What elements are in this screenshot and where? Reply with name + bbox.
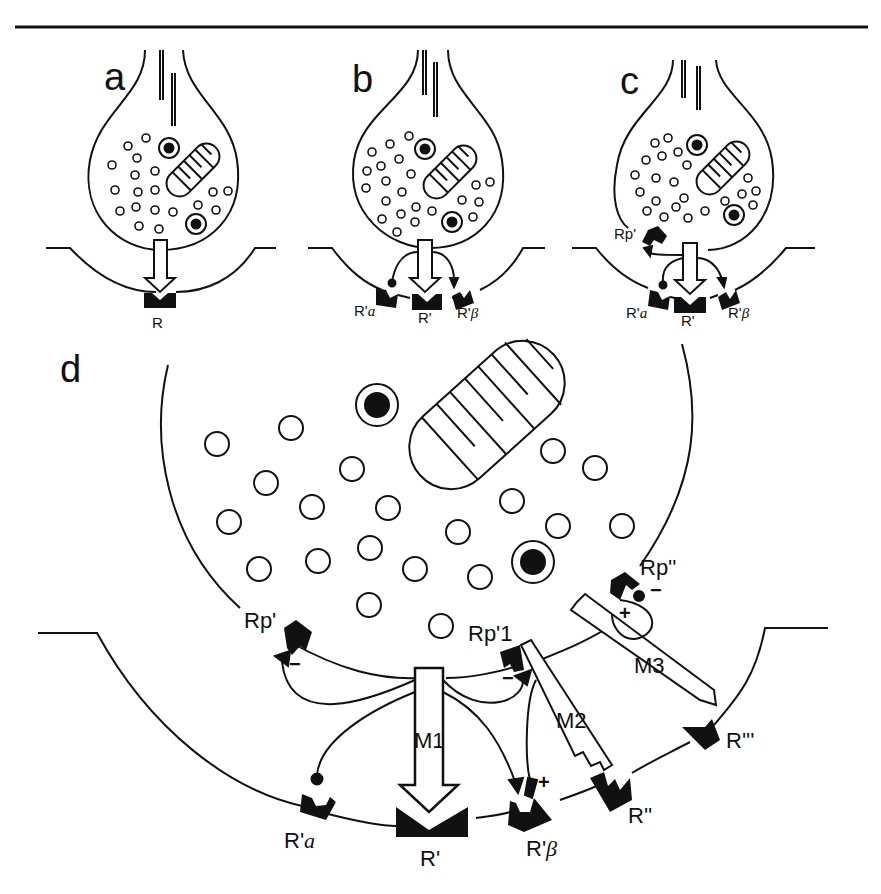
panel-d-terminal xyxy=(38,324,828,837)
label-R-prime: R' xyxy=(418,310,432,325)
label-Rp-prime: Rp' xyxy=(614,226,636,241)
synapse-figure xyxy=(0,0,881,894)
receptor-Rp-prime xyxy=(284,620,312,655)
mitochondrion xyxy=(392,324,582,507)
label-R-prime-a: R'a xyxy=(354,303,375,319)
panel-label-c: c xyxy=(620,62,639,100)
release-arrow xyxy=(145,240,175,292)
label-R-prime-a: R'a xyxy=(626,305,647,321)
label-M3: M3 xyxy=(634,655,665,677)
receptor-R-prime-a xyxy=(300,794,336,820)
panel-a-terminal xyxy=(46,50,276,308)
receptor-R-prime-beta xyxy=(508,798,552,832)
M3-arrow xyxy=(571,594,716,705)
M2-arrow xyxy=(521,640,612,770)
label-R-prime-beta: R'β xyxy=(457,305,478,321)
label-R-triple-prime: R''' xyxy=(726,730,755,752)
label-M2: M2 xyxy=(556,710,587,732)
minus-sign: − xyxy=(502,668,514,688)
label-R-double-prime: R'' xyxy=(628,805,652,827)
label-Rp-prime-1: Rp'1 xyxy=(468,623,513,645)
label-R-prime: R' xyxy=(420,848,440,870)
label-R-prime-a: R'a xyxy=(284,830,315,852)
panel-b-terminal xyxy=(308,50,545,310)
label-Rp-prime: Rp' xyxy=(244,610,276,632)
label-R-prime-beta: R'β xyxy=(526,838,557,860)
plus-sign: + xyxy=(619,603,631,623)
label-R: R xyxy=(152,315,163,330)
label-R-prime: R' xyxy=(681,313,695,328)
receptor-R-prime xyxy=(396,807,468,837)
minus-sign: − xyxy=(650,580,662,600)
label-Rp-double-prime: Rp'' xyxy=(640,557,677,579)
minus-sign: − xyxy=(289,654,301,674)
label-R-prime-beta: R'β xyxy=(728,305,749,321)
panel-c-terminal xyxy=(572,60,815,313)
label-M1: M1 xyxy=(414,730,445,752)
panel-label-a: a xyxy=(104,58,125,96)
panel-label-d: d xyxy=(60,350,81,388)
receptor-R xyxy=(144,293,176,308)
plus-sign: + xyxy=(538,772,550,792)
vesicles xyxy=(205,416,634,638)
panel-label-b: b xyxy=(352,60,373,98)
receptor-R-double-prime xyxy=(590,772,632,812)
